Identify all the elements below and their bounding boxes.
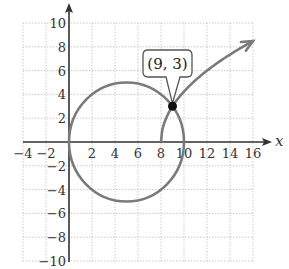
y-tick-label: 10 [49, 16, 66, 31]
point-label: (9, 3) [147, 55, 187, 73]
x-tick-label: 12 [199, 146, 216, 161]
coordinate-graph: −4−2246810121416108642−2−4−6−8−10 (9, 3)… [0, 0, 289, 269]
x-tick-label: 2 [88, 146, 96, 161]
x-tick-label: −4 [13, 146, 32, 161]
y-tick-label: −4 [47, 183, 66, 198]
x-tick-label: 14 [222, 146, 239, 161]
y-tick-label: 4 [58, 87, 66, 102]
y-tick-label: −2 [47, 159, 66, 174]
x-tick-label: 6 [134, 146, 142, 161]
y-tick-label: 8 [58, 40, 66, 55]
x-tick-label: 8 [157, 146, 165, 161]
x-axis-label: x [275, 132, 284, 150]
y-tick-label: −6 [47, 206, 66, 221]
x-tick-label: 4 [111, 146, 119, 161]
x-tick-label: 16 [245, 146, 262, 161]
y-tick-label: 2 [58, 111, 66, 126]
y-tick-label: −8 [47, 230, 66, 245]
intersection-point-marker [168, 102, 177, 111]
y-tick-label: 6 [58, 64, 66, 79]
y-tick-label: −10 [39, 254, 66, 269]
point-callout: (9, 3) [143, 50, 192, 103]
